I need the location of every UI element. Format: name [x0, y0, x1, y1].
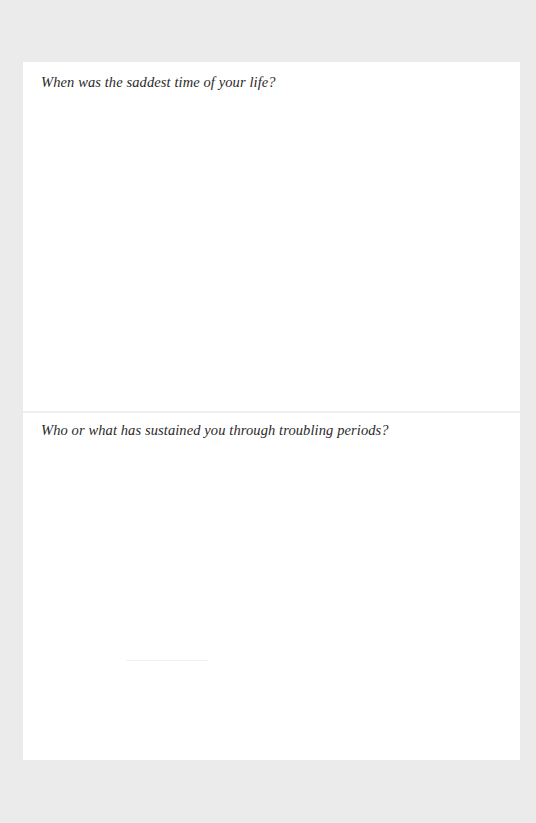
prompt-section-sustained-you: Who or what has sustained you through tr… [23, 413, 520, 760]
answer-area[interactable] [41, 102, 502, 402]
prompt-section-saddest-time: When was the saddest time of your life? [23, 62, 520, 412]
faint-mark [126, 660, 208, 661]
prompt-text: When was the saddest time of your life? [41, 74, 276, 91]
answer-area[interactable] [41, 453, 502, 750]
journal-page: When was the saddest time of your life? … [23, 62, 520, 760]
prompt-text: Who or what has sustained you through tr… [41, 422, 389, 439]
